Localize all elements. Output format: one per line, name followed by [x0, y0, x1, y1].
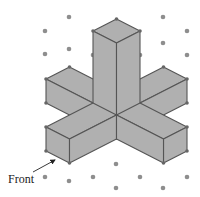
grid-dot — [114, 162, 119, 167]
isometric-jack-figure: Front — [0, 0, 200, 197]
vertex-dot — [138, 29, 142, 33]
vertex-dot — [185, 149, 189, 153]
vertex-dot — [185, 125, 189, 129]
vertex-dot — [115, 17, 119, 21]
vertex-dot — [162, 161, 166, 165]
vertex-dot — [68, 65, 72, 69]
grid-dot — [161, 41, 166, 46]
grid-dot — [161, 15, 166, 20]
grid-dot — [91, 175, 96, 180]
grid-dot — [185, 175, 190, 180]
vertex-dot — [68, 161, 72, 165]
grid-dot — [161, 186, 166, 191]
vertex-dot — [44, 101, 48, 105]
grid-dot — [67, 47, 72, 52]
grid-dot — [43, 52, 48, 57]
vertex-dot — [185, 101, 189, 105]
grid-dot — [185, 53, 190, 58]
vertex-dot — [162, 65, 166, 69]
grid-dot — [138, 175, 143, 180]
solid-faces — [46, 19, 187, 163]
grid-dot — [67, 15, 72, 20]
vertex-dot — [91, 29, 95, 33]
vertex-dot — [44, 125, 48, 129]
vertex-dot — [44, 77, 48, 81]
front-label: Front — [8, 172, 35, 186]
grid-dot — [114, 186, 119, 191]
isometric-drawing: Front — [0, 0, 200, 197]
vertex-dot — [185, 77, 189, 81]
grid-dot — [67, 179, 72, 184]
grid-dot — [43, 29, 48, 34]
vertex-dot — [44, 149, 48, 153]
grid-dot — [43, 175, 48, 180]
grid-dot — [185, 29, 190, 34]
front-arrow-icon — [33, 160, 55, 172]
